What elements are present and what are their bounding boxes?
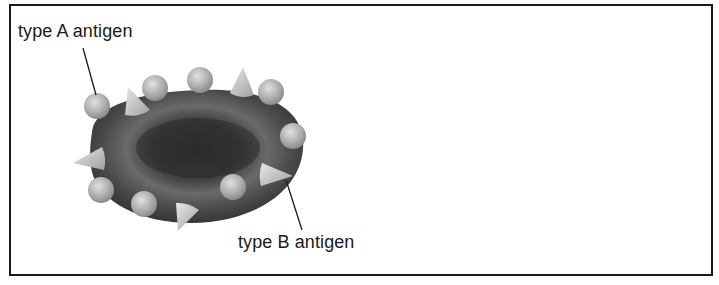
type-b-antigen-cone <box>230 67 254 97</box>
type-b-antigen-label: type B antigen <box>238 232 354 253</box>
type-b-antigen-cone <box>73 147 105 170</box>
type-a-antigen-label: type A antigen <box>18 21 133 42</box>
type-a-antigen-sphere <box>88 177 114 203</box>
type-a-antigen-sphere <box>187 67 213 93</box>
type-a-antigen-sphere <box>220 174 246 200</box>
type-a-antigen-sphere <box>131 191 157 217</box>
type-a-antigen-sphere <box>258 79 284 105</box>
red-blood-cell-illustration <box>0 0 719 285</box>
type-a-antigen-sphere <box>84 93 110 119</box>
cell-body <box>90 90 303 223</box>
type-a-leader-line <box>83 48 96 95</box>
type-b-leader-line <box>286 180 302 230</box>
type-a-antigen-sphere <box>280 123 306 149</box>
type-a-antigen-sphere <box>142 75 168 101</box>
